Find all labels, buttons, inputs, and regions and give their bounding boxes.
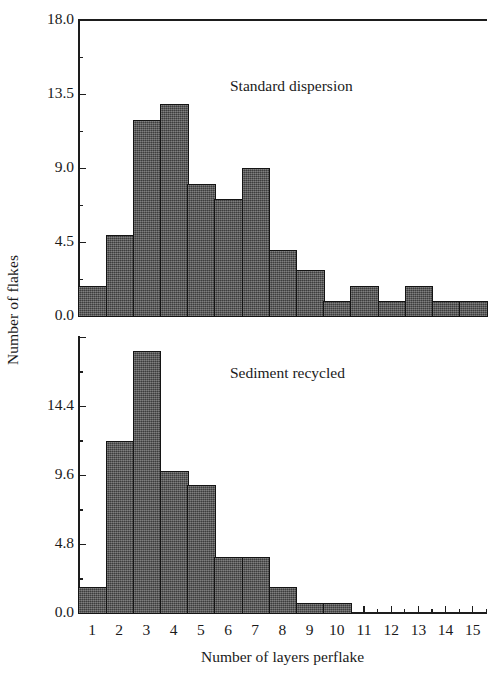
y-tick-minor <box>78 57 83 59</box>
x-tick-major <box>445 606 446 614</box>
x-tick-label: 14 <box>438 622 454 638</box>
y-tick-major <box>78 337 86 339</box>
bar <box>350 286 379 317</box>
y-tick-label: 4.8 <box>18 535 74 551</box>
plot-area-top <box>78 19 487 317</box>
bar <box>378 301 407 317</box>
bar <box>296 270 325 317</box>
bar <box>187 184 216 317</box>
y-tick-major <box>78 20 86 22</box>
y-tick-major <box>78 406 86 408</box>
bar <box>187 485 216 614</box>
bar <box>323 603 352 614</box>
panel-standard-dispersion: Standard dispersion <box>78 19 487 317</box>
x-tick-major <box>391 606 392 614</box>
x-tick-label: 12 <box>383 622 399 638</box>
bar <box>269 587 298 614</box>
x-tick-label: 6 <box>224 622 232 638</box>
y-tick-major <box>78 94 86 96</box>
bar <box>160 104 189 317</box>
y-tick-minor <box>78 131 83 133</box>
bar <box>106 441 135 615</box>
bar <box>214 557 243 614</box>
panel-note-top: Standard dispersion <box>230 77 353 95</box>
x-tick-minor <box>431 609 432 614</box>
x-tick-minor <box>377 609 378 614</box>
x-tick-label: 11 <box>357 622 372 638</box>
y-tick-minor <box>78 440 83 442</box>
x-tick-label: 13 <box>411 622 427 638</box>
x-tick-minor <box>486 609 487 614</box>
y-tick-label: 0.0 <box>18 307 74 323</box>
bar <box>269 250 298 317</box>
bar <box>106 235 135 317</box>
bar <box>160 471 189 614</box>
y-tick-minor <box>78 509 83 511</box>
x-tick-label: 7 <box>251 622 259 638</box>
x-tick-label: 3 <box>143 622 151 638</box>
bar <box>133 120 162 317</box>
x-tick-label: 2 <box>115 622 123 638</box>
x-tick-label: 9 <box>306 622 314 638</box>
y-tick-minor <box>78 578 83 580</box>
bar <box>242 557 271 614</box>
y-tick-minor <box>78 205 83 207</box>
bar <box>242 168 271 317</box>
y-tick-labels-top: 0.04.59.013.518.0 <box>14 0 74 330</box>
bar <box>405 286 434 317</box>
y-tick-label: 18.0 <box>18 11 74 27</box>
x-tick-label: 15 <box>465 622 481 638</box>
x-tick-label: 10 <box>329 622 345 638</box>
x-axis-title: Number of layers perflake <box>78 648 487 666</box>
x-tick-minor <box>459 609 460 614</box>
y-tick-label: 14.4 <box>18 397 74 413</box>
x-tick-minor <box>404 609 405 614</box>
bar <box>133 351 162 614</box>
bar <box>78 286 107 317</box>
x-tick-labels: 123456789101112131415 <box>78 620 487 642</box>
axis-spine-top <box>78 19 487 21</box>
x-tick-label: 1 <box>88 622 96 638</box>
x-tick-label: 5 <box>197 622 205 638</box>
bar <box>432 301 461 317</box>
bar <box>214 199 243 317</box>
y-tick-label: 9.6 <box>18 466 74 482</box>
y-tick-labels-bottom: 0.04.89.614.4 <box>14 336 74 626</box>
bar <box>323 301 352 317</box>
y-tick-major <box>78 168 86 170</box>
x-tick-label: 8 <box>279 622 287 638</box>
y-tick-minor <box>78 371 83 373</box>
x-tick-major <box>472 606 473 614</box>
y-tick-major <box>78 475 86 477</box>
bar <box>78 587 107 614</box>
y-tick-label: 13.5 <box>18 85 74 101</box>
panel-note-bottom: Sediment recycled <box>230 364 345 382</box>
y-tick-minor <box>78 279 83 281</box>
y-tick-label: 0.0 <box>18 604 74 620</box>
x-tick-label: 4 <box>170 622 178 638</box>
y-tick-major <box>78 242 86 244</box>
x-tick-major <box>418 606 419 614</box>
y-tick-major <box>78 544 86 546</box>
x-tick-major <box>363 606 364 614</box>
y-tick-label: 9.0 <box>18 159 74 175</box>
panel-sediment-recycled: Sediment recycled <box>78 336 487 614</box>
y-tick-label: 4.5 <box>18 233 74 249</box>
bar <box>296 603 325 614</box>
bar <box>459 301 488 317</box>
